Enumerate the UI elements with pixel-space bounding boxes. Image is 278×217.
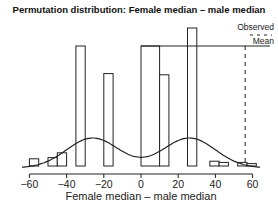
legend-mean-label: Mean xyxy=(253,36,275,46)
histogram-bar xyxy=(76,46,85,166)
legend-observed-label: Observed xyxy=(237,22,274,32)
x-tick-label: −20 xyxy=(95,178,113,190)
x-axis-label: Female median – male median xyxy=(0,190,278,202)
histogram-bar xyxy=(219,162,228,166)
histogram-bar xyxy=(188,28,197,166)
histogram-bar xyxy=(210,161,219,166)
histogram-bar xyxy=(160,75,169,166)
x-tick-label: 0 xyxy=(138,178,144,190)
histogram-bar xyxy=(141,46,160,166)
x-tick-label: 20 xyxy=(172,178,184,190)
chart-plot: −60−40−200204060ObservedMean xyxy=(0,0,278,217)
x-tick-label: 40 xyxy=(210,178,222,190)
histogram-bar xyxy=(104,74,113,166)
x-tick-label: 60 xyxy=(247,178,259,190)
x-tick-label: −60 xyxy=(20,178,38,190)
x-tick-label: −40 xyxy=(58,178,76,190)
